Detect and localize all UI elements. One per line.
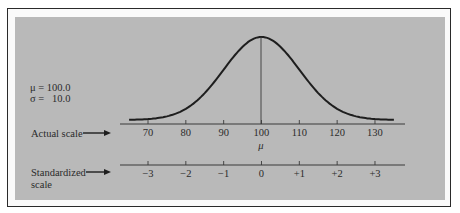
actual-scale-arrow-icon [83,130,111,136]
standardized-axis-ticks: −3−2−10+1+2+3 [142,161,380,179]
standardized-scale-label-line1: Standardized [31,167,87,178]
standardized-axis-tick-label: −2 [180,168,191,179]
sigma-parameter-label: σ = 10.0 [30,93,70,104]
actual-axis-tick-label: 110 [292,127,307,138]
mu-parameter-label: μ = 100.0 [30,82,70,93]
actual-axis-tick-label: 70 [143,127,154,138]
actual-axis-ticks: 708090100110120130 [143,120,383,138]
standardized-axis-tick-label: +2 [332,168,343,179]
standardized-axis-tick-label: +1 [294,168,305,179]
normal-distribution-diagram: 708090100110120130 −3−2−10+1+2+3 μ = 100… [0,0,460,213]
actual-axis-tick-label: 90 [218,127,229,138]
actual-axis-tick-label: 120 [329,127,345,138]
standardized-scale-label-line2: scale [31,179,52,190]
standardized-scale-arrow-icon [86,169,111,175]
standardized-axis-tick-label: 0 [259,168,264,179]
normal-curve [129,37,394,120]
actual-axis-tick-label: 130 [367,127,383,138]
actual-axis-tick-label: 100 [254,127,270,138]
actual-axis-tick-label: 80 [181,127,192,138]
standardized-axis-tick-label: −3 [142,168,153,179]
mean-axis-label: μ [257,140,263,151]
standardized-axis-tick-label: −1 [218,168,229,179]
actual-scale-label: Actual scale [31,128,83,139]
standardized-axis-tick-label: +3 [369,168,380,179]
